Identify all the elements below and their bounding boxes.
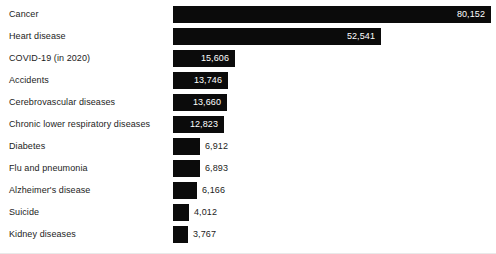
bar-track <box>173 160 200 177</box>
bar-fill <box>173 226 188 243</box>
bar-value-label: 80,152 <box>457 6 485 23</box>
category-label: Suicide <box>9 204 39 221</box>
bar-row: Cerebrovascular diseases13,660 <box>0 94 496 111</box>
bar-value-label: 52,541 <box>347 28 375 45</box>
bar-row: Flu and pneumonia6,893 <box>0 160 496 177</box>
bar-value-label: 6,893 <box>205 160 228 177</box>
bar-fill <box>173 182 197 199</box>
category-label: Accidents <box>9 72 49 89</box>
bar-track: 15,606 <box>173 50 235 67</box>
bar-row: Alzheimer's disease6,166 <box>0 182 496 199</box>
category-label: COVID-19 (in 2020) <box>9 50 90 67</box>
category-label: Kidney diseases <box>9 226 76 243</box>
bar-fill <box>173 160 200 177</box>
bar-value-label: 6,912 <box>205 138 228 155</box>
bar-value-label: 12,823 <box>190 116 218 133</box>
bar-value-label: 13,660 <box>193 94 221 111</box>
bar-value-label: 4,012 <box>194 204 217 221</box>
bar-row: Heart disease52,541 <box>0 28 496 45</box>
bar-track: 13,660 <box>173 94 227 111</box>
bar-row: Accidents13,746 <box>0 72 496 89</box>
bar-value-label: 6,166 <box>202 182 225 199</box>
bar-fill <box>173 6 491 23</box>
bar-value-label: 15,606 <box>201 50 229 67</box>
bar-value-label: 13,746 <box>194 72 222 89</box>
category-label: Cerebrovascular diseases <box>9 94 115 111</box>
bar-fill <box>173 138 200 155</box>
bar-track: 13,746 <box>173 72 228 89</box>
bar-fill <box>173 204 189 221</box>
bar-row: Cancer80,152 <box>0 6 496 23</box>
bar-track: 80,152 <box>173 6 491 23</box>
bar-row: Diabetes6,912 <box>0 138 496 155</box>
horizontal-bar-chart: Cancer80,152Heart disease52,541COVID-19 … <box>0 0 496 254</box>
bar-row: Kidney diseases3,767 <box>0 226 496 243</box>
bar-track <box>173 204 189 221</box>
bar-row: Chronic lower respiratory diseases12,823 <box>0 116 496 133</box>
bar-track: 12,823 <box>173 116 224 133</box>
bar-row: Suicide4,012 <box>0 204 496 221</box>
category-label: Cancer <box>9 6 39 23</box>
bar-track <box>173 182 197 199</box>
category-label: Chronic lower respiratory diseases <box>9 116 150 133</box>
bar-row: COVID-19 (in 2020)15,606 <box>0 50 496 67</box>
category-label: Heart disease <box>9 28 66 45</box>
category-label: Diabetes <box>9 138 45 155</box>
bar-value-label: 3,767 <box>193 226 216 243</box>
bar-track <box>173 138 200 155</box>
bar-track <box>173 226 188 243</box>
category-label: Alzheimer's disease <box>9 182 90 199</box>
bar-track: 52,541 <box>173 28 381 45</box>
category-label: Flu and pneumonia <box>9 160 88 177</box>
